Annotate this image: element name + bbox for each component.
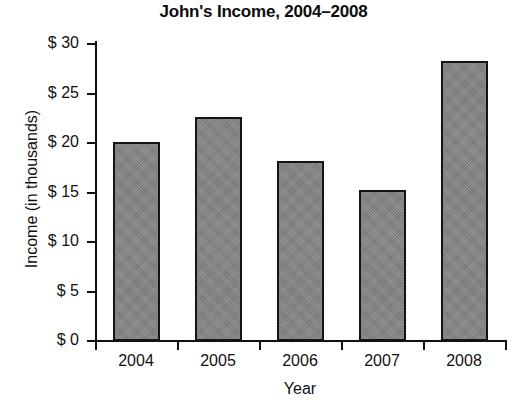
x-axis-tick: [341, 341, 343, 350]
plot-area: [95, 44, 505, 341]
bar-2008: [441, 61, 488, 341]
x-axis-tick-label: 2006: [265, 352, 335, 370]
chart-title: John's Income, 2004–2008: [0, 2, 527, 22]
y-axis-tick-label: $ 10: [17, 233, 79, 249]
bar-chart: John's Income, 2004–2008 Income (in thou…: [0, 0, 527, 410]
y-axis-tick-label-text: $ 15: [19, 184, 79, 200]
x-axis-tick-label: 2005: [183, 352, 253, 370]
y-axis-tick-label: $ 0: [17, 332, 79, 348]
y-axis-tick-label-text: $ 0: [19, 332, 79, 348]
x-axis-tick-label: 2007: [347, 352, 417, 370]
y-axis-tick-label: $ 15: [17, 184, 79, 200]
x-axis-tick: [423, 341, 425, 350]
bar-2004: [113, 142, 160, 341]
y-axis-tick-label-text: $ 5: [19, 283, 79, 299]
y-axis-tick-label-text: $ 20: [19, 134, 79, 150]
x-axis-title: Year: [95, 380, 505, 398]
bar-2007: [359, 190, 406, 341]
x-axis-tick: [177, 341, 179, 350]
y-axis-tick-label-text: $ 25: [19, 85, 79, 101]
y-axis-tick-label-text: $ 10: [19, 233, 79, 249]
x-axis-tick-label: 2008: [429, 352, 499, 370]
y-axis-tick-label: $ 30: [17, 35, 79, 51]
y-axis-tick-label: $ 5: [17, 283, 79, 299]
bar-2006: [277, 161, 324, 341]
y-axis-tick-label: $ 20: [17, 134, 79, 150]
bar-2005: [195, 117, 242, 341]
y-axis-tick-label: $ 25: [17, 85, 79, 101]
x-axis-tick: [95, 341, 97, 350]
x-axis-tick: [505, 341, 507, 350]
x-axis-tick-label: 2004: [101, 352, 171, 370]
y-axis-tick-label-text: $ 30: [19, 35, 79, 51]
x-axis-tick: [259, 341, 261, 350]
